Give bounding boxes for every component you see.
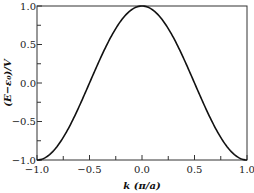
x-tick-label: 1.0: [239, 164, 254, 175]
y-tick-label: 0.5: [20, 39, 36, 50]
x-ticks: −1.0−0.50.00.51.0: [25, 155, 254, 175]
y-tick-label: 1.0: [20, 1, 36, 12]
x-tick-label: −0.5: [77, 164, 101, 175]
x-tick-label: 0.5: [187, 164, 203, 175]
chart: −1.0−0.50.00.51.0 1.00.50.0−0.5−1.0 k (π…: [0, 0, 254, 193]
y-tick-label: −0.5: [12, 116, 36, 127]
y-tick-label: −1.0: [12, 155, 36, 166]
plot-frame: [37, 6, 247, 160]
y-tick-label: 0.0: [20, 78, 36, 89]
y-axis-label: (E−ε₀)/V: [2, 58, 13, 107]
x-tick-label: 0.0: [134, 164, 150, 175]
dispersion-curve: [37, 6, 247, 160]
y-ticks: 1.00.50.0−0.5−1.0: [12, 1, 42, 166]
x-axis-label: k (π/a): [123, 180, 161, 191]
x-tick-label: −1.0: [25, 164, 49, 175]
